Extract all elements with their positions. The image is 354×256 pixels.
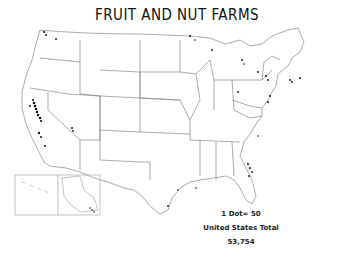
alaska-hawaii-inset <box>15 175 100 215</box>
farm-dots <box>29 31 301 213</box>
state-outlines <box>22 28 304 214</box>
legend-total-value: 53,754 <box>196 235 286 249</box>
map-legend: 1 Dot= 50 United States Total 53,754 <box>196 207 286 249</box>
legend-total-label: United States Total <box>196 221 286 235</box>
legend-dot-value: 1 Dot= 50 <box>196 207 286 221</box>
us-dot-map <box>0 0 354 256</box>
